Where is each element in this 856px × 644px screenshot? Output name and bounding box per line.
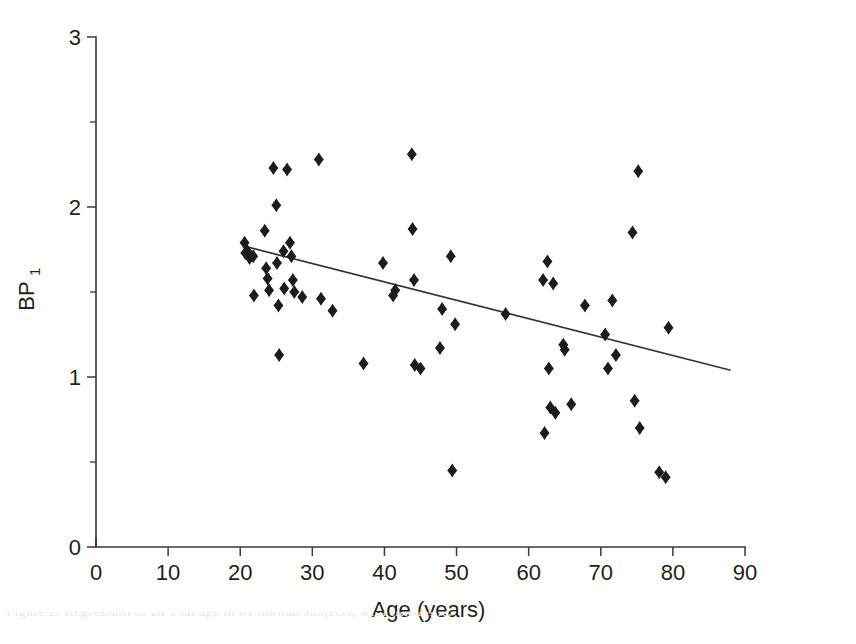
data-point-marker [611, 348, 621, 362]
y-tick-label: 3 [69, 25, 81, 50]
x-tick-label: 10 [156, 560, 180, 585]
data-point-marker [450, 317, 460, 331]
data-point-marker [408, 222, 418, 236]
y-tick-label: 0 [69, 535, 81, 560]
data-point-marker [580, 299, 590, 313]
data-point-marker [274, 348, 284, 362]
data-points [240, 147, 674, 484]
data-point-marker [630, 394, 640, 408]
figure-caption-strip: Figure 2. Regression of BP1 on age in 61… [0, 612, 856, 644]
data-point-marker [285, 236, 295, 250]
x-tick-label: 40 [372, 560, 396, 585]
axes [87, 37, 745, 556]
data-point-marker [264, 283, 274, 297]
data-point-marker [260, 224, 270, 238]
x-tick-label: 90 [733, 560, 757, 585]
y-tick-label: 1 [69, 365, 81, 390]
axis-labels: 01230102030405060708090Age (years)BP1 [14, 25, 757, 622]
data-point-marker [328, 304, 338, 318]
y-axis-title-text: BP [14, 281, 39, 310]
data-point-marker [540, 426, 550, 440]
data-point-marker [501, 307, 511, 321]
data-point-marker [628, 226, 638, 240]
data-point-marker [407, 147, 417, 161]
data-point-marker [548, 277, 558, 291]
x-tick-label: 30 [300, 560, 324, 585]
data-point-marker [538, 273, 548, 287]
x-tick-label: 20 [228, 560, 252, 585]
scatter-plot: 01230102030405060708090Age (years)BP1 [0, 0, 856, 644]
x-tick-label: 70 [589, 560, 613, 585]
data-point-marker [288, 273, 298, 287]
data-point-marker [273, 299, 283, 313]
data-point-marker [633, 164, 643, 178]
data-point-marker [282, 163, 292, 177]
data-point-marker [249, 288, 259, 302]
x-tick-label: 60 [516, 560, 540, 585]
data-point-marker [378, 256, 388, 270]
data-point-marker [635, 421, 645, 435]
data-point-marker [542, 254, 552, 268]
data-point-marker [271, 198, 281, 212]
y-tick-label: 2 [69, 195, 81, 220]
fit-line-segment [244, 246, 731, 370]
regression-line [244, 246, 731, 370]
data-point-marker [263, 271, 273, 285]
data-point-marker [272, 256, 282, 270]
data-point-marker [435, 341, 445, 355]
data-point-marker [316, 292, 326, 306]
x-tick-label: 80 [661, 560, 685, 585]
data-point-marker [447, 464, 457, 478]
data-point-marker [544, 362, 554, 376]
data-point-marker [664, 321, 674, 335]
data-point-marker [279, 282, 289, 296]
x-tick-label: 0 [90, 560, 102, 585]
data-point-marker [437, 302, 447, 316]
data-point-marker [603, 362, 613, 376]
y-axis-title-subscript: 1 [26, 268, 43, 276]
data-point-marker [359, 356, 369, 370]
figure-caption: Figure 2. Regression of BP1 on age in 61… [6, 612, 852, 620]
data-point-marker [314, 152, 324, 166]
data-point-marker [607, 294, 617, 308]
data-point-marker [566, 397, 576, 411]
x-tick-label: 50 [444, 560, 468, 585]
data-point-marker [268, 161, 278, 175]
data-point-marker [261, 261, 271, 275]
data-point-marker [409, 273, 419, 287]
y-axis-title: BP1 [14, 268, 43, 311]
figure-container: 01230102030405060708090Age (years)BP1 Fi… [0, 0, 856, 644]
data-point-marker [446, 249, 456, 263]
